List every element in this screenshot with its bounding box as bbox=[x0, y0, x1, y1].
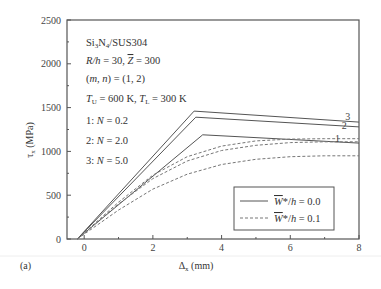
x-tick-label: 4 bbox=[219, 242, 224, 253]
y-tick-label: 2500 bbox=[41, 15, 61, 26]
svg-text:Si3N4/SUS304: Si3N4/SUS304 bbox=[86, 37, 148, 50]
y-tick-label: 500 bbox=[46, 190, 61, 201]
curve-label: 3 bbox=[345, 111, 350, 122]
annotation-block: Si3N4/SUS304R/h = 30, Z = 300(m, n) = (1… bbox=[85, 37, 187, 166]
svg-text:TU = 600 K, TL = 300 K: TU = 600 K, TL = 300 K bbox=[86, 93, 187, 106]
legend-label: W*/h = 0.0 bbox=[274, 196, 320, 207]
legend: W*/h = 0.0W*/h = 0.1 bbox=[234, 187, 334, 230]
x-axis-label: Δx (mm) bbox=[179, 260, 214, 273]
svg-text:(m, n) = (1, 2): (m, n) = (1, 2) bbox=[86, 73, 146, 85]
x-tick-label: 2 bbox=[150, 242, 155, 253]
y-tick-label: 1500 bbox=[41, 102, 61, 113]
svg-text:3: N = 5.0: 3: N = 5.0 bbox=[86, 155, 128, 166]
svg-text:2: N = 2.0: 2: N = 2.0 bbox=[86, 135, 128, 146]
x-tick-label: 0 bbox=[82, 242, 87, 253]
curve-label: 1 bbox=[335, 133, 340, 144]
x-tick-label: 8 bbox=[357, 242, 362, 253]
svg-text:1: N = 0.2: 1: N = 0.2 bbox=[86, 115, 128, 126]
svg-text:R/h = 30, Z = 300: R/h = 30, Z = 300 bbox=[85, 55, 160, 66]
y-tick-label: 1000 bbox=[41, 146, 61, 157]
y-tick-label: 0 bbox=[56, 234, 61, 245]
y-tick-label: 2000 bbox=[41, 58, 61, 69]
x-tick-label: 6 bbox=[288, 242, 293, 253]
y-axis-label: τx (MPa) bbox=[24, 122, 37, 158]
legend-label: W*/h = 0.1 bbox=[274, 213, 320, 224]
chart: 0246805001000150020002500 123 Si3N4/SUS3… bbox=[0, 0, 381, 289]
panel-label: (a) bbox=[20, 260, 31, 272]
